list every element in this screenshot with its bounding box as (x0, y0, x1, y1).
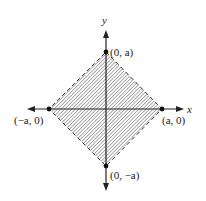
vertex-label-bottom: (0, −a) (110, 169, 140, 182)
vertex-label-right: (a, 0) (162, 114, 186, 127)
y-axis-label: y (101, 14, 107, 26)
x-axis-label: x (186, 103, 192, 115)
vertex-label-left: (−a, 0) (14, 114, 44, 127)
vertex-label-top: (0, a) (110, 46, 134, 59)
diamond-region-diagram: y x (0, a) (a, 0) (0, −a) (−a, 0) (0, 0, 206, 201)
